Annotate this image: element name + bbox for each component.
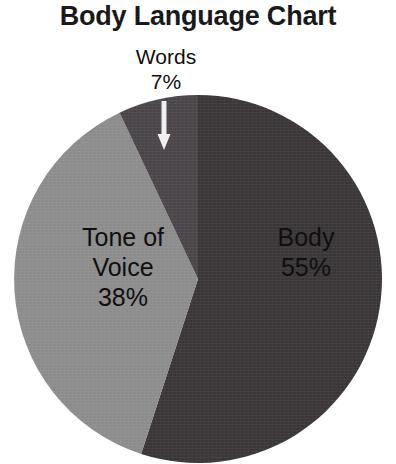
slice-label-tone-of-voice-name-line1: Tone of [48,222,198,252]
slice-label-body-value: 55% [240,252,372,282]
slice-label-body: Body 55% [240,222,372,282]
slice-label-tone-of-voice-name-line2: Voice [48,252,198,282]
slice-label-words-name: Words [98,44,234,69]
slice-label-body-name: Body [240,222,372,252]
slice-label-tone-of-voice-value: 38% [48,282,198,312]
pie-chart: Body Language Chart Words 7% Tone of Voi… [0,0,396,464]
slice-label-words: Words 7% [98,44,234,94]
slice-label-tone-of-voice: Tone of Voice 38% [48,222,198,312]
slice-label-words-value: 7% [98,69,234,94]
